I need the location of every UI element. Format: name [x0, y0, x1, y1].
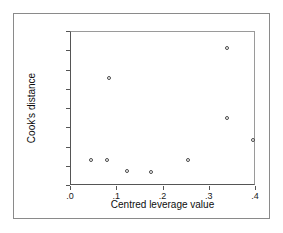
- data-point: [225, 116, 229, 120]
- x-tick-mark: [163, 186, 164, 190]
- x-tick-mark: [255, 186, 256, 190]
- data-point: [251, 138, 255, 142]
- data-point: [125, 169, 129, 173]
- x-tick-mark: [70, 186, 71, 190]
- data-point: [89, 158, 93, 162]
- x-tick-mark: [209, 186, 210, 190]
- data-point: [149, 170, 153, 174]
- data-point: [186, 158, 190, 162]
- data-point: [105, 158, 109, 162]
- plot-area: [70, 31, 255, 185]
- data-point: [225, 46, 229, 50]
- data-point: [107, 76, 111, 80]
- x-axis-label: Centred leverage value: [70, 199, 255, 210]
- chart-screenshot: Cook's distance -.1.0.1.2.3.4.5.6.7 .0.1…: [0, 0, 283, 233]
- x-tick-mark: [116, 186, 117, 190]
